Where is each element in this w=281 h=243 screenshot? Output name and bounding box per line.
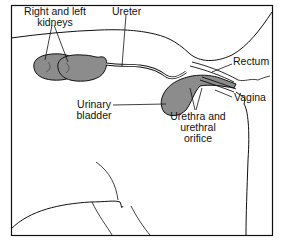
label-bladder: Urinary bladder	[74, 99, 114, 121]
right-kidney	[58, 55, 107, 81]
label-kidneys-line2: kidneys	[20, 17, 90, 28]
label-urethra: Urethra and urethral orifice	[166, 111, 230, 144]
label-rectum: Rectum	[233, 56, 269, 67]
figure-frame	[12, 6, 273, 236]
urinary-system-diagram	[0, 0, 281, 243]
label-kidneys: Right and left kidneys	[20, 6, 90, 28]
label-vagina: Vagina	[234, 92, 266, 103]
ureter	[106, 64, 186, 78]
label-ureter: Ureter	[112, 6, 141, 17]
label-bladder-line2: bladder	[74, 110, 114, 121]
leg-contour	[11, 201, 123, 229]
label-urethra-line3: orifice	[166, 133, 230, 144]
